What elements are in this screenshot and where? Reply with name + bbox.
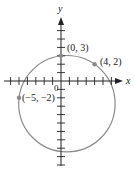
x-axis-arrow-icon	[115, 78, 123, 84]
point-label: (0, 3)	[67, 42, 89, 54]
circle	[19, 55, 115, 151]
point-marker-icon	[59, 54, 63, 58]
coordinate-plane: x y 0 (0, 3) (4, 2) (−5, −2)	[0, 0, 135, 172]
point-marker-icon	[92, 62, 96, 66]
x-axis-label: x	[125, 75, 131, 86]
point-label: (4, 2)	[100, 56, 122, 68]
point-label: (−5, −2)	[22, 92, 55, 104]
y-axis-label: y	[57, 3, 63, 14]
x-axis	[4, 77, 123, 85]
y-axis-arrow-icon	[58, 17, 64, 25]
point-neg5-neg2: (−5, −2)	[17, 92, 55, 104]
point-marker-icon	[17, 96, 21, 100]
